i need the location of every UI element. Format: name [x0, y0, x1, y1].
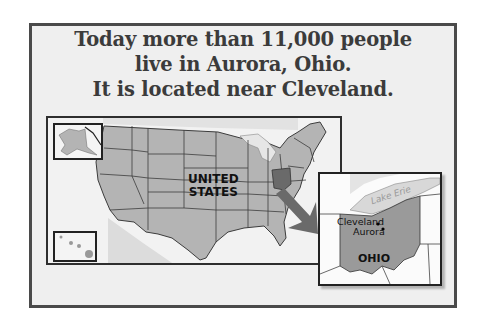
- aurora-label: Aurora: [353, 226, 385, 237]
- alaska-inset: [53, 123, 103, 160]
- title-line-3: It is located near Cleveland.: [29, 77, 457, 102]
- title-block: Today more than 11,000 people live in Au…: [29, 27, 457, 102]
- title-line-1: Today more than 11,000 people: [29, 27, 457, 52]
- hawaii-inset: [53, 231, 97, 262]
- ohio-inset: Lake Erie Cleveland Aurora OHIO: [318, 172, 442, 286]
- ohio-label: OHIO: [358, 252, 390, 265]
- title-line-2: live in Aurora, Ohio.: [29, 52, 457, 77]
- us-label-line-2: STATES: [188, 186, 239, 199]
- us-label: UNITED STATES: [188, 173, 239, 199]
